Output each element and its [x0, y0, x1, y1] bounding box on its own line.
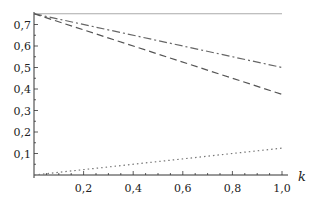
y-tick-label: 0,3	[14, 105, 32, 118]
series-line-dotted	[34, 148, 282, 175]
y-tick-label: 0,2	[14, 126, 32, 139]
series-line-dash-dot	[34, 14, 282, 68]
x-tick-label: 0,6	[174, 182, 192, 195]
x-tick-label: 0,8	[224, 182, 242, 195]
line-chart: 0,20,40,60,81,00,10,20,30,40,50,60,7k	[0, 0, 316, 203]
y-tick-label: 0,4	[14, 83, 32, 96]
x-tick-label: 1,0	[273, 182, 291, 195]
x-axis-label: k	[298, 169, 306, 184]
y-tick-label: 0,1	[14, 148, 32, 161]
x-tick-label: 0,2	[75, 182, 93, 195]
y-tick-label: 0,6	[14, 40, 32, 53]
series-line-dashed	[34, 14, 282, 95]
x-tick-label: 0,4	[124, 182, 142, 195]
y-tick-label: 0,5	[14, 62, 32, 75]
y-tick-label: 0,7	[14, 19, 32, 32]
